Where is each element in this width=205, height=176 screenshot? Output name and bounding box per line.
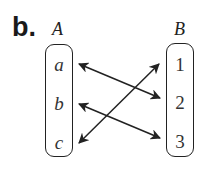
mapping-arrows	[0, 0, 205, 176]
arrow-b-to-3	[79, 104, 160, 138]
arrow-a-to-2	[79, 64, 160, 98]
arrow-c-to-1	[79, 64, 159, 143]
